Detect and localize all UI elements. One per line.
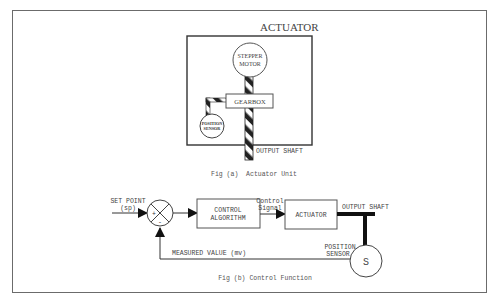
output-shaft-label-b: OUTPUT SHAFT: [342, 204, 389, 211]
set-point-label-1: SET POINT: [110, 198, 145, 205]
fig-a-actuator-unit: ACTUATOR STEPPER MOTOR GEARBOX POSITION …: [187, 21, 319, 178]
sensor-link-horizontal: [206, 98, 227, 102]
minus-sign: -: [158, 219, 162, 226]
control-algorithm-label-1: CONTROL: [214, 207, 241, 214]
gearbox-label: GEARBOX: [234, 98, 266, 105]
control-signal-label-2: Signal: [258, 205, 282, 212]
measured-value-label: MEASURED VALUE (mv): [172, 250, 246, 257]
diagram-canvas: ACTUATOR STEPPER MOTOR GEARBOX POSITION …: [0, 0, 495, 301]
position-sensor-label-1: POSITION: [324, 244, 355, 251]
actuator-label: ACTUATOR: [295, 212, 326, 219]
stepper-motor-icon: [233, 43, 267, 77]
fig-b-caption: Fig (b) Control Function: [218, 275, 312, 282]
output-shaft-label: OUTPUT SHAFT: [256, 148, 303, 155]
motor-label-1: STEPPER: [237, 53, 262, 59]
plus-sign: +: [152, 211, 156, 218]
actuator-title: ACTUATOR: [260, 21, 319, 33]
fig-b-control-function: SET POINT (sp) + - CONTROL ALGORITHM Con…: [110, 198, 388, 282]
output-shaft-bar: [337, 212, 375, 216]
fig-a-caption: Fig (a) Actuator Unit: [211, 171, 297, 178]
set-point-label-2: (sp): [120, 205, 136, 212]
control-algorithm-label-2: ALGORITHM: [210, 215, 245, 222]
position-sensor-label-2: SENSOR: [326, 251, 350, 258]
sensor-shaft-bar: [363, 212, 367, 245]
motor-shaft: [245, 76, 253, 160]
sensor-label-2: SENSOR: [204, 126, 222, 131]
control-signal-label-1: Control: [256, 198, 283, 205]
sensor-symbol: S: [363, 257, 369, 268]
motor-label-2: MOTOR: [239, 61, 261, 67]
